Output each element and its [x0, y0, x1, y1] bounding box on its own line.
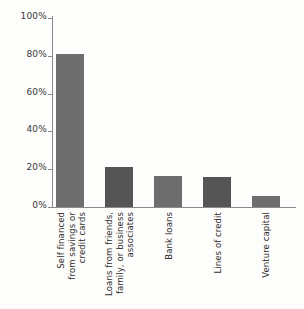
- bar: [56, 54, 84, 207]
- bar: [154, 176, 182, 207]
- bar: [252, 196, 280, 207]
- y-axis-tick-label: 20%: [26, 162, 47, 172]
- bar: [203, 177, 231, 207]
- y-axis-tick-label: 40%: [26, 124, 47, 134]
- y-axis-tick-mark: [48, 207, 52, 208]
- y-axis-tick-label: 80%: [26, 49, 47, 59]
- bar-chart: 0%20%40%60%80%100% Self financed from sa…: [0, 0, 304, 309]
- y-axis-tick-label: 60%: [26, 87, 47, 97]
- y-axis-tick-label: 0%: [32, 200, 47, 210]
- x-axis-label: Loans from friends, family, or business …: [104, 212, 136, 306]
- x-axis-line: [52, 207, 296, 208]
- x-axis-label: Lines of credit: [213, 212, 224, 306]
- bar: [105, 167, 133, 207]
- plot-area: [52, 18, 296, 207]
- x-axis-label: Bank loans: [164, 212, 175, 306]
- x-axis-label: Self financed from savings or credit car…: [56, 212, 88, 306]
- y-axis-tick-label: 100%: [20, 11, 47, 21]
- x-axis-label: Venture capital: [261, 212, 272, 306]
